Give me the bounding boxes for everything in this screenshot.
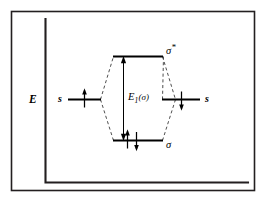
mo-energy-diagram-figure: E s s σ* σ E1(σ): [0, 0, 266, 202]
electron-arrow-bonding-up-head: [125, 129, 130, 135]
sigma-star-superscript: *: [171, 42, 176, 52]
electron-arrow-bonding-down-head: [134, 145, 139, 151]
correlation-line-left-antibonding: [101, 57, 114, 100]
electron-arrow-right-down-head: [179, 104, 184, 110]
energy-axis-label: E: [29, 94, 37, 106]
molecular-orbital-label-bonding: σ: [166, 140, 171, 151]
atomic-orbital-label-left: s: [58, 94, 62, 104]
energy-gap-argument: (σ): [138, 92, 149, 102]
correlation-line-right-antibonding-upper: [163, 57, 164, 100]
molecular-orbital-label-antibonding: σ*: [166, 46, 176, 57]
electron-arrow-left-up-head: [82, 88, 87, 94]
correlation-line-right-bonding: [163, 100, 176, 141]
correlation-line-left-bonding: [101, 100, 114, 141]
atomic-orbital-label-right: s: [205, 94, 209, 104]
correlation-line-right-antibonding: [163, 57, 176, 100]
energy-gap-label: E1(σ): [128, 92, 149, 103]
